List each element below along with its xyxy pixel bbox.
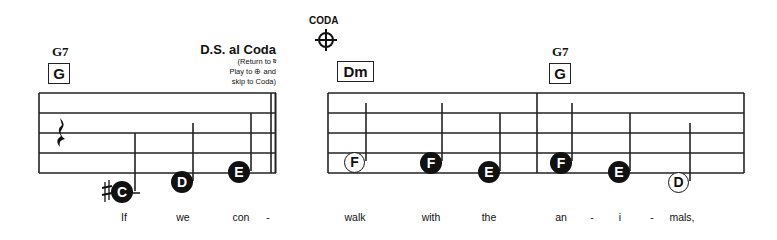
- lyric: walk: [330, 211, 380, 223]
- lyric: If: [99, 211, 149, 223]
- note-d: D: [171, 171, 193, 193]
- lyric: the: [464, 211, 514, 223]
- note-f: F: [550, 152, 572, 174]
- lyric: mals,: [657, 211, 707, 223]
- lyric: with: [406, 211, 456, 223]
- note-f-half: F: [344, 152, 365, 173]
- music-staff: [0, 0, 777, 240]
- note-e: E: [478, 161, 500, 183]
- note-d-half: D: [668, 172, 689, 193]
- note-e: E: [228, 161, 250, 183]
- lyric: we: [158, 211, 208, 223]
- note-e: E: [608, 161, 630, 183]
- note-c-sharp: C: [111, 181, 133, 203]
- note-f: F: [420, 152, 442, 174]
- lyric: -: [243, 211, 293, 223]
